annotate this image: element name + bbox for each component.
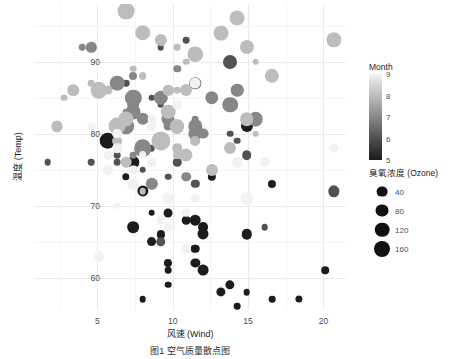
data-point xyxy=(239,40,253,54)
data-point xyxy=(139,296,146,303)
data-point xyxy=(243,289,250,296)
data-point xyxy=(242,150,252,160)
data-point xyxy=(129,165,138,174)
data-point xyxy=(225,280,234,289)
data-point xyxy=(88,159,95,166)
data-point xyxy=(151,131,170,150)
data-point xyxy=(170,119,184,133)
colour-legend-tick-label: 5 xyxy=(386,156,390,165)
gridline-vertical-minor xyxy=(60,4,61,310)
data-point xyxy=(103,165,113,175)
data-point xyxy=(223,55,237,69)
x-axis-tick-label: 5 xyxy=(77,316,117,326)
gridline-horizontal-minor xyxy=(34,170,346,171)
x-axis-label: 风速 (Wind) xyxy=(34,327,346,340)
colour-legend-tick-label: 9 xyxy=(386,70,390,79)
data-point xyxy=(329,143,338,152)
data-point xyxy=(79,44,86,51)
data-point xyxy=(104,151,113,160)
data-point xyxy=(165,267,172,274)
data-point xyxy=(181,172,191,182)
colour-legend-tick-label: 6 xyxy=(386,134,390,143)
data-point xyxy=(114,159,121,166)
size-legend-dot xyxy=(374,241,390,257)
data-point xyxy=(139,72,147,80)
data-point xyxy=(130,152,137,159)
data-point xyxy=(191,194,200,203)
plot-panel xyxy=(34,4,346,310)
data-point xyxy=(234,303,241,310)
data-point xyxy=(173,151,181,159)
y-axis-tick-label: 90 xyxy=(60,57,100,67)
size-legend-label: 40 xyxy=(395,187,404,196)
data-point xyxy=(173,65,180,72)
data-point xyxy=(240,192,252,204)
y-axis-tick-label: 60 xyxy=(60,273,100,283)
data-point xyxy=(112,129,122,139)
data-point xyxy=(156,237,166,247)
data-point xyxy=(147,115,156,124)
data-point xyxy=(231,84,243,96)
gridline-vertical-minor xyxy=(210,4,211,310)
gridline-horizontal-minor xyxy=(34,26,346,27)
data-point xyxy=(252,58,259,65)
data-point xyxy=(205,91,219,105)
data-point xyxy=(174,87,181,94)
data-point xyxy=(227,130,234,137)
data-point xyxy=(232,157,242,167)
data-point xyxy=(241,229,251,239)
data-point xyxy=(192,116,199,123)
data-point xyxy=(198,222,208,232)
data-point xyxy=(190,136,200,146)
data-point xyxy=(182,208,191,217)
data-point xyxy=(139,166,146,173)
gridline-vertical xyxy=(323,4,324,310)
size-legend: 臭氧浓度 (Ozone) 4080120160 xyxy=(369,166,449,258)
size-legend-dot xyxy=(376,204,389,217)
x-axis-tick-label: 15 xyxy=(228,316,268,326)
data-point xyxy=(139,188,146,195)
data-point xyxy=(135,25,151,41)
data-point xyxy=(240,112,254,126)
size-legend-row: 160 xyxy=(369,239,449,258)
data-point xyxy=(114,202,121,209)
data-point xyxy=(213,25,228,40)
data-point xyxy=(234,137,241,144)
x-axis-tick-label: 10 xyxy=(153,316,193,326)
size-legend-row: 120 xyxy=(369,220,449,239)
y-axis-label: 温度 (Temp) xyxy=(11,112,24,202)
colour-legend-bar-wrap: 98765 xyxy=(369,74,425,160)
data-point xyxy=(326,32,341,47)
data-point xyxy=(183,58,190,65)
data-point xyxy=(268,180,276,188)
data-point xyxy=(148,209,155,216)
size-legend-rows: 4080120160 xyxy=(369,182,449,258)
data-point xyxy=(172,100,182,110)
size-legend-dot xyxy=(375,222,390,237)
size-legend-row: 80 xyxy=(369,201,449,220)
data-point xyxy=(139,151,147,159)
gridline-horizontal-minor xyxy=(34,242,346,243)
data-point xyxy=(222,97,238,113)
data-point xyxy=(112,143,122,153)
data-point xyxy=(260,157,270,167)
data-point xyxy=(252,130,259,137)
chart-figure: 温度 (Temp) 风速 (Wind) 图1 空气质量散点图 Month 987… xyxy=(0,0,449,359)
colour-legend: Month 98765 xyxy=(369,62,449,160)
data-point xyxy=(265,69,279,83)
data-point xyxy=(93,251,104,262)
data-point xyxy=(118,4,135,20)
data-point xyxy=(156,216,165,225)
data-point xyxy=(173,158,182,167)
x-axis-tick-label: 20 xyxy=(303,316,343,326)
data-point xyxy=(181,244,191,254)
size-legend-label: 120 xyxy=(395,225,408,234)
data-point xyxy=(165,281,172,288)
data-point xyxy=(191,180,199,188)
data-point xyxy=(216,287,225,296)
data-point xyxy=(174,44,181,51)
data-point xyxy=(230,11,245,26)
data-point xyxy=(61,94,68,101)
data-point xyxy=(164,223,173,232)
data-point xyxy=(44,159,51,166)
